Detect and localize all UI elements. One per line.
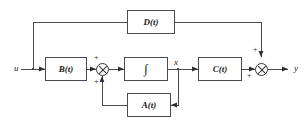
junction-input-branch — [32, 68, 34, 70]
block-a[interactable]: A(t) — [127, 93, 171, 117]
block-b-label: B(t) — [59, 64, 74, 74]
block-c-label: C(t) — [213, 64, 228, 74]
signal-label-x: x — [174, 58, 178, 67]
integral-icon: ∫ — [144, 61, 148, 77]
block-a-label: A(t) — [142, 100, 157, 110]
sign-sum1-bottom: + — [94, 78, 99, 86]
summing-junction-output[interactable] — [255, 63, 268, 76]
sign-sum2-top: + — [253, 46, 258, 54]
block-c[interactable]: C(t) — [198, 57, 242, 81]
block-d-label: D(t) — [144, 17, 159, 27]
wire-d-to-output-summer — [175, 22, 261, 57]
block-b[interactable]: B(t) — [45, 57, 87, 81]
sign-sum1-top: + — [94, 54, 99, 62]
wire-x-to-a — [171, 69, 178, 105]
block-integrator[interactable]: ∫ — [124, 57, 168, 81]
block-diagram-canvas: D(t) B(t) ∫ C(t) A(t) + + + + u x y — [0, 0, 308, 124]
sign-sum2-bottom: + — [247, 72, 252, 80]
signal-label-u: u — [14, 64, 19, 73]
summing-junction-input[interactable] — [96, 63, 109, 76]
junction-x-node — [177, 68, 179, 70]
signal-label-y: y — [294, 64, 298, 73]
block-d[interactable]: D(t) — [127, 10, 175, 34]
